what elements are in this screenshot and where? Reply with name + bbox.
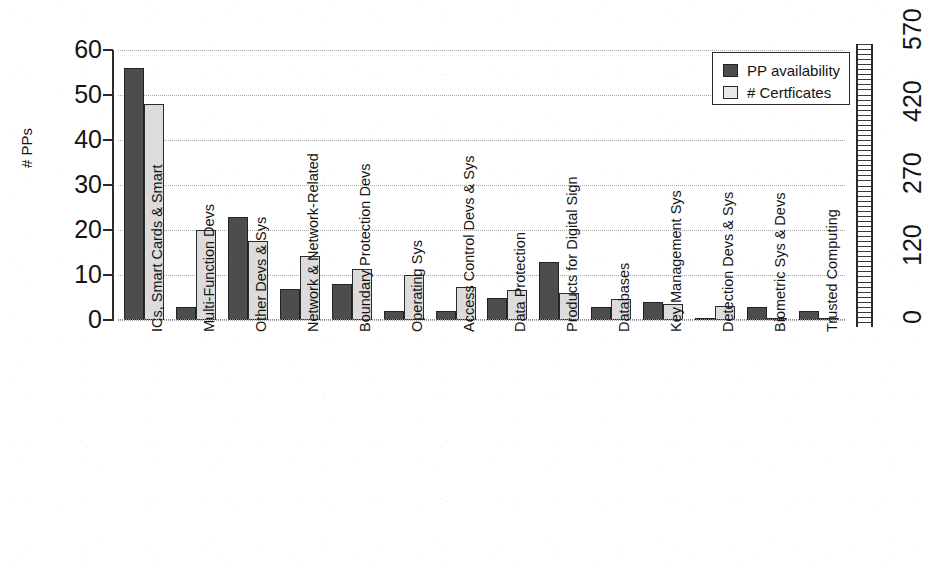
left-axis-tick-label: 10 (40, 262, 102, 287)
left-axis-tick (103, 184, 113, 186)
right-axis-tick-label: 270 (900, 152, 925, 194)
right-axis-minor-tick (858, 115, 871, 116)
bar-pp-availability (591, 307, 611, 321)
x-axis-category-label: Operating Sys (410, 240, 425, 332)
right-axis-minor-tick (858, 241, 871, 242)
x-axis-category-label: Detection Devs & Sys (721, 192, 736, 332)
right-axis-minor-tick (858, 287, 871, 288)
right-axis-minor-tick (858, 145, 871, 146)
left-axis-tick (103, 49, 113, 51)
x-axis-category-label: Trusted Computing (825, 209, 840, 332)
bar-pp-availability (332, 284, 352, 320)
right-axis-minor-tick (858, 322, 871, 323)
right-axis-minor-tick (858, 105, 871, 106)
right-axis-minor-tick (858, 216, 871, 217)
x-axis-category-label: Network & Network-Related (306, 153, 321, 332)
right-axis-minor-tick (858, 89, 871, 90)
right-axis-minor-tick (858, 206, 871, 207)
left-axis-tick (103, 229, 113, 231)
right-axis-minor-tick (858, 236, 871, 237)
right-axis-minor-tick (858, 160, 871, 161)
right-axis-minor-tick (858, 54, 871, 55)
bar-pp-availability (643, 302, 663, 320)
right-axis-minor-tick (858, 231, 871, 232)
right-axis-minor-tick (858, 246, 871, 247)
right-axis-minor-tick (858, 64, 871, 65)
right-axis-tick-label: 570 (900, 8, 925, 50)
right-axis-minor-tick (858, 196, 871, 197)
right-axis-minor-tick (858, 282, 871, 283)
right-axis-minor-tick (858, 165, 871, 166)
right-axis-minor-tick (858, 155, 871, 156)
right-axis-minor-tick (858, 256, 871, 257)
right-axis-minor-tick (858, 49, 871, 50)
right-axis-minor-tick (858, 69, 871, 70)
left-axis-tick (103, 94, 113, 96)
right-axis-tick-label: 420 (900, 80, 925, 122)
right-axis-tick-label: 0 (900, 310, 925, 324)
right-axis-minor-tick (858, 74, 871, 75)
bar-pp-availability (176, 307, 196, 321)
right-axis-minor-tick (858, 79, 871, 80)
right-axis-minor-tick (858, 130, 871, 131)
bar-pp-availability (280, 289, 300, 321)
right-axis-minor-tick (858, 44, 871, 45)
right-axis-rail (856, 44, 873, 327)
right-axis-minor-tick (858, 276, 871, 277)
right-axis-minor-tick (858, 186, 871, 187)
left-axis-tick-label: 40 (40, 127, 102, 152)
right-axis-minor-tick (858, 140, 871, 141)
bar-pp-availability (228, 217, 248, 321)
x-axis-category-label: Key Management Sys (669, 190, 684, 332)
x-axis-category-label: Access Control Devs & Sys (462, 156, 477, 332)
right-axis-minor-tick (858, 221, 871, 222)
left-axis-tick-label: 0 (40, 307, 102, 332)
right-axis-minor-tick (858, 110, 871, 111)
right-axis-minor-tick (858, 317, 871, 318)
right-axis-minor-tick (858, 271, 871, 272)
left-axis-tick-label: 50 (40, 82, 102, 107)
right-axis-minor-tick (858, 297, 871, 298)
bar-pp-availability (747, 307, 767, 321)
right-axis-minor-tick (858, 251, 871, 252)
right-axis-minor-tick (858, 150, 871, 151)
right-axis-minor-tick (858, 266, 871, 267)
x-axis-category-label: Multi-Function Devs (202, 204, 217, 332)
x-axis-category-label: Databases (617, 263, 632, 332)
left-axis-spine (112, 50, 114, 321)
left-axis-title: # PPs (18, 128, 35, 168)
right-axis-minor-tick (858, 307, 871, 308)
right-axis-minor-tick (858, 170, 871, 171)
right-axis-minor-tick (858, 226, 871, 227)
right-axis-minor-tick (858, 292, 871, 293)
right-axis-minor-tick (858, 120, 871, 121)
left-axis-tick-label: 30 (40, 172, 102, 197)
right-axis-minor-tick (858, 191, 871, 192)
right-axis-minor-tick (858, 180, 871, 181)
legend-label-pp-availability: PP availability (747, 63, 840, 78)
bar-chart: # PPs 0102030405060 ICs, Smart Cards & S… (0, 0, 944, 581)
right-axis-tick-label: 120 (900, 225, 925, 267)
right-axis-minor-tick (858, 312, 871, 313)
right-axis-minor-tick (858, 125, 871, 126)
right-axis-minor-tick (858, 261, 871, 262)
left-axis-tick (103, 274, 113, 276)
x-axis-category-label: Biometric Sys & Devs (773, 193, 788, 332)
x-axis-category-label: Other Devs & Sys (254, 217, 269, 332)
left-axis-tick-label: 60 (40, 37, 102, 62)
right-axis-minor-tick (858, 201, 871, 202)
right-axis-minor-tick (858, 135, 871, 136)
bar-pp-availability (124, 68, 144, 320)
x-axis-category-label: ICs, Smart Cards & Smart (150, 164, 165, 332)
x-axis-category-label: Data Protection (513, 232, 528, 332)
legend-swatch-light-icon (723, 86, 738, 99)
left-axis-tick (103, 319, 113, 321)
right-axis-minor-tick (858, 100, 871, 101)
x-axis-category-label: Boundary Protection Devs (358, 164, 373, 332)
legend-item-pp-availability: PP availability (723, 59, 849, 81)
right-axis-minor-tick (858, 211, 871, 212)
right-axis-minor-tick (858, 59, 871, 60)
bar-pp-availability (539, 262, 559, 321)
bar-pp-availability (487, 298, 507, 321)
right-axis-minor-tick (858, 175, 871, 176)
